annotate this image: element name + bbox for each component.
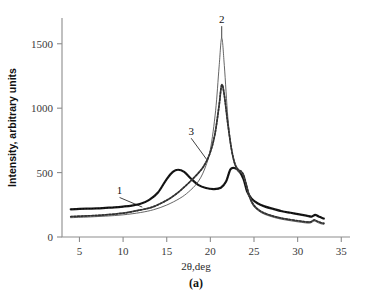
series-markers-3: [71, 85, 324, 224]
y-tick-label: 1500: [31, 38, 54, 50]
x-tick-label: 5: [77, 245, 83, 257]
x-tick-label: 20: [205, 245, 217, 257]
y-axis-label: Intensity, arbitrary units: [6, 68, 18, 187]
y-tick-label: 0: [48, 231, 54, 243]
series-curve-3: [71, 85, 324, 224]
chart-annotations: 123: [117, 13, 225, 207]
xrd-diffractogram-figure: 5101520253035 050010001500 123 2θ,deg In…: [0, 0, 365, 292]
curve-label-2: 2: [219, 13, 225, 25]
curve-label-3: 3: [188, 125, 194, 137]
y-axis-ticks: 050010001500: [31, 38, 62, 243]
chart-series-group: [71, 38, 324, 224]
x-tick-label: 30: [292, 245, 304, 257]
x-tick-label: 25: [249, 245, 261, 257]
x-tick-label: 35: [336, 245, 348, 257]
chart-canvas: 5101520253035 050010001500 123 2θ,deg In…: [0, 0, 365, 292]
figure-caption: (a): [189, 276, 203, 290]
curve-label-1: 1: [117, 184, 123, 196]
x-axis-ticks: 5101520253035: [77, 237, 348, 257]
x-axis-label: 2θ,deg: [181, 260, 211, 272]
leader-line-3: [191, 138, 207, 159]
x-tick-label: 15: [161, 245, 173, 257]
y-tick-label: 1000: [31, 102, 54, 114]
series-curve-2: [71, 38, 324, 224]
axis-spine: [62, 18, 350, 237]
x-tick-label: 10: [118, 245, 130, 257]
y-tick-label: 500: [37, 167, 54, 179]
